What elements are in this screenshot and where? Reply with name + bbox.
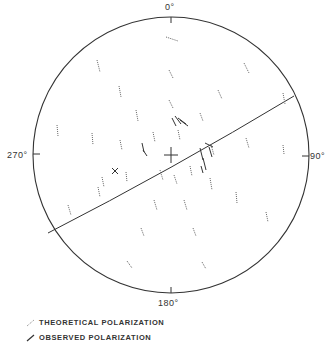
label-180-deg: 180° [158,298,179,308]
observed-mark [203,158,206,170]
theoretical-mark [283,145,284,154]
theoretical-mark [210,178,212,190]
center-cross [164,147,178,163]
theoretical-mark [202,262,206,269]
theoretical-mark [190,166,192,176]
theoretical-mark [169,100,173,108]
theoretical-mark [68,205,71,215]
legend-theoretical: THEORETICAL POLARIZATION [26,318,164,327]
great-circle [48,96,294,233]
theoretical-mark [174,175,177,184]
theoretical-mark [184,200,187,210]
observed-mark [201,166,203,173]
theoretical-mark [141,228,144,236]
legend-observed: OBSERVED POLARIZATION [26,333,151,342]
theoretical-mark [246,138,249,148]
theoretical-mark [178,130,180,140]
theoretical-mark [266,212,268,222]
theoretical-mark [57,125,58,136]
theoretical-mark [136,110,138,121]
theoretical-mark [244,63,249,73]
solid-line-icon [26,334,35,342]
theoretical-mark [153,132,155,142]
theoretical-mark [127,261,132,268]
theoretical-mark [126,172,127,182]
theoretical-mark [119,86,121,97]
theoretical-mark [97,60,100,72]
theoretical-mark [154,200,157,210]
great-circle-line [48,96,294,233]
theoretical-mark [193,228,196,236]
label-90-deg: 90° [310,151,325,161]
observed-mark [143,150,147,156]
theoretical-mark [98,187,100,197]
theoretical-mark [200,113,203,121]
theoretical-mark [236,192,237,203]
label-0-deg: 0° [165,2,175,12]
theoretical-mark [218,90,222,99]
theoretical-mark [102,177,104,187]
theoretical-mark [166,37,178,41]
label-270-deg: 270° [7,150,28,160]
legend-label-theoretical: THEORETICAL POLARIZATION [39,318,164,327]
observed-polarization-marks [112,116,213,174]
observed-mark [180,120,188,126]
dotted-line-icon [26,319,35,327]
theoretical-mark [169,70,173,78]
theoretical-mark [92,133,93,145]
polarization-diagram [0,0,329,310]
observed-mark [209,147,212,157]
observed-mark [172,118,176,126]
theoretical-mark [120,140,122,150]
legend-label-observed: OBSERVED POLARIZATION [39,333,151,342]
